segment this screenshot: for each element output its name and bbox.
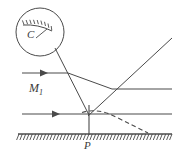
- detail-circle-label-c: C: [27, 29, 34, 40]
- ground-hatching: [17, 134, 172, 140]
- detail-pointer-line: [36, 29, 47, 38]
- ray-from-detail-circle: [55, 48, 89, 115]
- magnified-mirror-detail-circle: [16, 8, 64, 56]
- incident-ray-label-letter: M: [29, 81, 39, 95]
- incident-ray-label-m1: M1: [29, 82, 43, 97]
- physics-ray-diagram: C M1 P: [0, 0, 180, 157]
- upper-ray-arrowhead: [40, 70, 48, 77]
- ground-point-label-p: P: [84, 140, 91, 151]
- incident-ray-label-subscript: 1: [39, 88, 43, 97]
- diagram-canvas: [0, 0, 180, 157]
- lower-ray-arrowhead: [52, 111, 60, 118]
- reflected-ray-upward: [88, 38, 172, 116]
